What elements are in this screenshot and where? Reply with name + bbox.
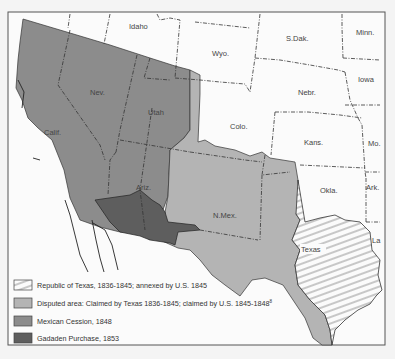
legend-item-republic-of-texas: Republic of Texas, 1836-1845; annexed by… [14, 280, 207, 290]
swatch-republic-of-texas [14, 280, 32, 290]
label-ark: Ark. [366, 183, 379, 192]
label-minn: Minn. [356, 28, 374, 37]
label-mo: Mo. [368, 139, 381, 148]
label-colo: Colo. [230, 122, 248, 131]
label-idaho: Idaho [129, 22, 148, 31]
label-iowa: Iowa [358, 75, 375, 84]
label-utah: Utah [148, 108, 164, 117]
label-calif: Calif. [44, 128, 61, 137]
territorial-acquisitions-map: Idaho Wyo. S.Dak. Minn. Nev. Utah Nebr. … [0, 0, 395, 359]
legend-item-disputed-area: Disputed area: Claimed by Texas 1836-184… [14, 298, 272, 308]
legend-label: Mexican Cession, 1848 [37, 317, 112, 326]
label-nmex: N.Mex. [213, 211, 237, 220]
swatch-disputed-area [14, 298, 32, 308]
legend-label: Republic of Texas, 1836-1845; annexed by… [37, 281, 207, 290]
label-sdak: S.Dak. [286, 34, 309, 43]
swatch-gadsden-purchase [14, 333, 32, 343]
legend-label: Disputed area: Claimed by Texas 1836-184… [37, 299, 272, 308]
label-nev: Nev. [90, 88, 105, 97]
legend-item-mexican-cession: Mexican Cession, 1848 [14, 316, 112, 326]
label-ariz: Ariz. [136, 183, 151, 192]
label-wyo: Wyo. [212, 49, 229, 58]
label-nebr: Nebr. [298, 88, 316, 97]
label-kans: Kans. [304, 138, 323, 147]
label-okla: Okla. [320, 186, 338, 195]
legend-item-gadsden-purchase: Gadaden Purchase, 1853 [14, 333, 119, 343]
label-texas: Texas [301, 245, 321, 254]
label-la: La [372, 236, 381, 245]
legend-label: Gadaden Purchase, 1853 [37, 334, 119, 343]
swatch-mexican-cession [14, 316, 32, 326]
